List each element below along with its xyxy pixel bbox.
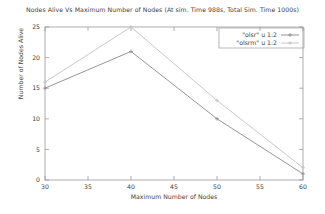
chart-root: Nodes Alive Vs Maximum Number of Nodes (… <box>0 0 325 214</box>
x-tick-label: 50 <box>213 183 221 190</box>
series-line-1 <box>43 25 305 170</box>
y-tick-label: 0 <box>36 176 40 183</box>
x-tick-label: 35 <box>84 183 92 190</box>
legend-label-0: "olsr" u 1:2 <box>242 31 277 38</box>
legend-label-1: "olsrm" u 1:2 <box>236 39 277 46</box>
x-tick-label: 30 <box>41 183 49 190</box>
chart-plot-area: 051015202530354045505560 "olsr" u 1:2"ol… <box>0 0 325 214</box>
series-line-0 <box>43 49 305 175</box>
chart-legend: "olsr" u 1:2"olsrm" u 1:2 <box>219 28 304 48</box>
x-tick-label: 55 <box>256 183 264 190</box>
y-tick-label: 10 <box>32 115 40 122</box>
x-tick-label: 60 <box>299 183 307 190</box>
x-axis-label: Maximum Number of Nodes <box>45 193 303 200</box>
y-tick-label: 25 <box>32 23 40 30</box>
x-tick-label: 45 <box>170 183 178 190</box>
y-tick-label: 20 <box>32 54 40 61</box>
axes-frame <box>45 27 303 180</box>
x-tick-label: 40 <box>127 183 135 190</box>
data-series <box>43 25 305 176</box>
y-tick-label: 5 <box>36 146 40 153</box>
y-tick-label: 15 <box>32 84 40 91</box>
y-axis-label: Number of Nodes Alive <box>17 4 24 124</box>
